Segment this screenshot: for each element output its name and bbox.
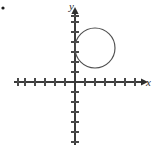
y-axis-group xyxy=(71,7,79,145)
corner-speck-mark xyxy=(1,6,4,9)
y-axis-label: y xyxy=(68,0,74,12)
x-axis-label: x xyxy=(145,76,151,88)
coordinate-plane-svg: x y xyxy=(0,0,156,153)
figure-canvas: x y xyxy=(0,0,156,153)
circle-graph xyxy=(75,28,115,68)
x-axis-group xyxy=(14,78,148,86)
